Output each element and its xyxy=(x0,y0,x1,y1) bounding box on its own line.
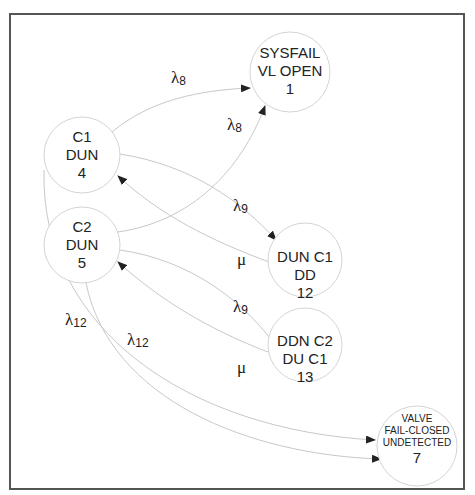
svg-text:FAIL-CLOSED: FAIL-CLOSED xyxy=(384,425,449,436)
svg-text:DUN C1: DUN C1 xyxy=(277,248,333,265)
node-1: SYSFAIL VL OPEN 1 xyxy=(250,32,330,112)
edge-5-to-13 xyxy=(120,250,270,338)
svg-text:13: 13 xyxy=(297,368,314,385)
svg-text:DDN C2: DDN C2 xyxy=(277,332,333,349)
node-4: C1 DUN 4 xyxy=(44,117,120,193)
svg-text:C2: C2 xyxy=(72,218,91,235)
svg-text:UNDETECTED: UNDETECTED xyxy=(383,437,451,448)
svg-text:7: 7 xyxy=(413,449,421,466)
label-mu-b: μ xyxy=(237,358,246,377)
markov-diagram: λ8 λ8 λ9 μ λ9 μ λ12 λ12 SYSFAIL VL OPEN … xyxy=(0,0,475,495)
svg-text:DD: DD xyxy=(294,266,316,283)
svg-text:5: 5 xyxy=(78,254,86,271)
label-lambda12-b: λ12 xyxy=(127,330,149,350)
svg-text:DUN: DUN xyxy=(66,236,99,253)
label-lambda9-a: λ9 xyxy=(233,196,248,216)
svg-text:C1: C1 xyxy=(72,128,91,145)
edge-12-to-4 xyxy=(118,176,269,262)
svg-text:DUN: DUN xyxy=(66,146,99,163)
label-lambda9-b: λ9 xyxy=(233,297,248,317)
svg-text:12: 12 xyxy=(297,284,314,301)
svg-text:SYSFAIL: SYSFAIL xyxy=(260,44,321,61)
node-5: C2 DUN 5 xyxy=(44,207,120,283)
label-lambda12-a: λ12 xyxy=(65,310,87,330)
node-12: DUN C1 DD 12 xyxy=(268,223,342,301)
label-lambda8-a: λ8 xyxy=(171,68,186,88)
node-7: VALVE FAIL-CLOSED UNDETECTED 7 xyxy=(377,406,457,486)
svg-text:DU C1: DU C1 xyxy=(282,350,327,367)
svg-text:VALVE: VALVE xyxy=(402,413,433,424)
svg-text:1: 1 xyxy=(286,80,294,97)
node-13: DDN C2 DU C1 13 xyxy=(268,308,342,385)
svg-text:VL OPEN: VL OPEN xyxy=(258,62,322,79)
label-mu-a: μ xyxy=(237,250,246,269)
svg-text:4: 4 xyxy=(78,164,86,181)
label-lambda8-b: λ8 xyxy=(227,115,242,135)
